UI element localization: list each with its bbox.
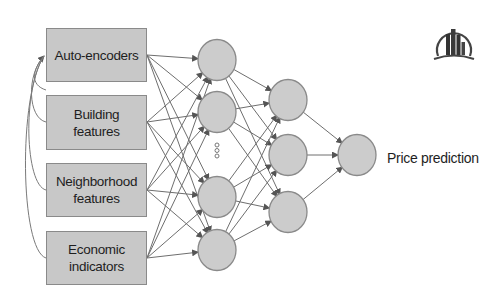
output-label: Price prediction bbox=[387, 150, 479, 166]
hidden1-node bbox=[198, 177, 236, 218]
input-auto-encoders: Auto-encoders bbox=[46, 28, 147, 82]
hidden1-node bbox=[198, 92, 236, 133]
input-label: Neighborhood features bbox=[56, 173, 137, 207]
edge bbox=[147, 190, 198, 195]
edge bbox=[147, 73, 203, 122]
edge bbox=[303, 167, 343, 200]
edge bbox=[303, 112, 342, 143]
hidden2-node bbox=[269, 192, 307, 233]
edge bbox=[147, 190, 203, 238]
hidden2-node bbox=[269, 135, 307, 176]
input-neighborhood-features: Neighborhood features bbox=[46, 163, 147, 217]
edge bbox=[147, 55, 198, 59]
connections bbox=[147, 55, 342, 258]
hidden1-node bbox=[198, 40, 236, 81]
ellipsis-dots bbox=[215, 143, 219, 158]
input-label: Economic indicators bbox=[68, 241, 125, 275]
edge bbox=[147, 252, 198, 258]
city-buildings-icon bbox=[431, 22, 477, 62]
feedback-arcs bbox=[25, 56, 46, 258]
input-label: Building features bbox=[73, 106, 119, 140]
input-building-features: Building features bbox=[46, 95, 147, 150]
input-economic-indicators: Economic indicators bbox=[46, 231, 147, 285]
hidden1-node bbox=[198, 230, 236, 271]
input-label: Auto-encoders bbox=[55, 47, 139, 64]
output-node bbox=[338, 135, 376, 176]
hidden2-node bbox=[269, 80, 307, 121]
edge bbox=[234, 221, 271, 241]
edge bbox=[234, 69, 272, 90]
